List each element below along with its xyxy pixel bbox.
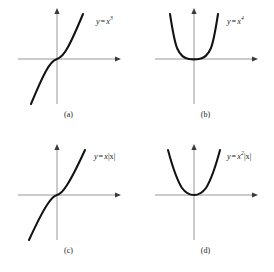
x-axis-arrowhead-icon	[252, 192, 258, 197]
panel-b: y=x4 (b)	[137, 0, 274, 136]
plot-area-a	[0, 0, 137, 112]
y-axis-arrowhead-icon	[54, 144, 59, 150]
eq-exponent-a: 3	[110, 15, 113, 21]
x-axis-arrowhead-icon	[252, 56, 258, 61]
x-axis-arrowhead-icon	[115, 56, 121, 61]
panel-c: y=x|x| (c)	[0, 136, 137, 272]
panel-a: y=x3 (a)	[0, 0, 137, 136]
equation-label-a: y=x3	[96, 17, 113, 26]
panel-caption-d: (d)	[137, 246, 274, 255]
plot-area-c	[0, 136, 137, 248]
equation-label-d: y=x2|x|	[227, 152, 251, 161]
eq-exponent-b: 4	[241, 15, 244, 21]
equation-label-b: y=x4	[227, 17, 244, 26]
panel-caption-c: (c)	[0, 246, 137, 255]
y-axis-arrowhead-icon	[191, 8, 196, 14]
panel-caption-b: (b)	[137, 110, 274, 119]
plot-area-b	[137, 0, 274, 112]
y-axis-arrowhead-icon	[54, 8, 59, 14]
eq-abs-d: |x|	[244, 152, 251, 161]
plot-area-d	[137, 136, 274, 248]
y-axis-arrowhead-icon	[191, 144, 196, 150]
x-axis-arrowhead-icon	[115, 192, 121, 197]
eq-abs-c: |x|	[108, 152, 115, 161]
panel-d: y=x2|x| (d)	[137, 136, 274, 272]
equation-label-c: y=x|x|	[94, 152, 115, 161]
figure-four-power-function-graphs: y=x3 (a) y=x4 (b)	[0, 0, 274, 272]
page-edge-artifact	[8, 270, 266, 271]
panel-grid: y=x3 (a) y=x4 (b)	[0, 0, 274, 272]
panel-caption-a: (a)	[0, 110, 137, 119]
